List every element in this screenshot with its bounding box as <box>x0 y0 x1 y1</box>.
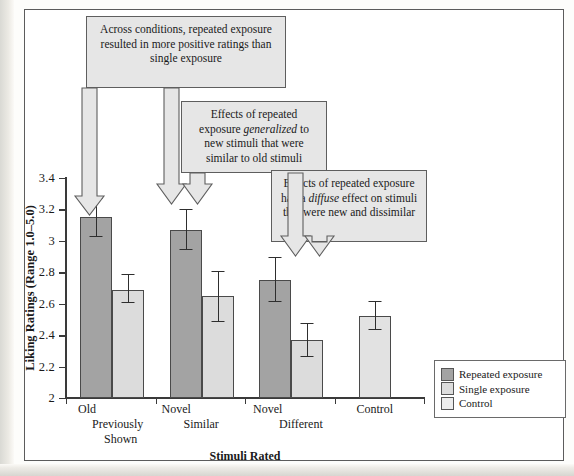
y-axis-tick-label: 2.4 <box>39 328 55 343</box>
error-bar <box>275 257 276 301</box>
legend-item: Control <box>441 397 559 410</box>
x-axis-category-line: Novel <box>253 402 282 417</box>
error-bar-cap <box>368 301 381 302</box>
scan-edge-left <box>0 0 14 476</box>
annotation-text: Across conditions, repeated exposure res… <box>100 23 272 64</box>
x-axis-tick <box>424 398 425 404</box>
control-swatch <box>441 397 454 410</box>
legend-item: Single exposure <box>441 382 559 395</box>
error-bar-cap <box>211 321 224 322</box>
y-axis-title: Liking Ratings (Range 1.0–5.0) <box>23 178 39 398</box>
y-axis-tick-label: 3.4 <box>39 171 55 186</box>
y-axis-tick-label: 2.6 <box>39 296 55 311</box>
x-axis-category-label: Control <box>335 402 425 448</box>
bar <box>170 230 202 398</box>
legend-item: Repeated exposure <box>441 368 559 381</box>
y-axis-tick-label: 2.2 <box>39 359 55 374</box>
y-axis-tick <box>59 241 66 242</box>
x-axis-category-line: Previously <box>92 417 143 432</box>
y-axis-tick <box>59 178 66 179</box>
legend-label: Repeated exposure <box>459 368 542 380</box>
annotation-across-conditions: Across conditions, repeated exposure res… <box>86 16 286 88</box>
x-axis-category-label: NovelDifferent <box>245 402 335 448</box>
y-axis-tick-label: 3.2 <box>39 202 55 217</box>
legend-label: Control <box>459 397 493 409</box>
y-axis-tick <box>59 304 66 305</box>
error-bar <box>307 323 308 356</box>
error-bar <box>375 301 376 329</box>
error-bar <box>96 198 97 236</box>
y-axis-tick-label: 2 <box>49 391 55 406</box>
x-axis-category-line: Different <box>279 417 323 432</box>
error-bar <box>128 274 129 302</box>
error-bar <box>218 271 219 321</box>
error-bar-cap <box>122 274 135 275</box>
figure-container: 22.22.42.62.833.23.4 Liking Ratings (Ran… <box>0 0 574 476</box>
error-bar <box>186 209 187 248</box>
annotation-emphasis: diffuse <box>308 192 339 204</box>
x-axis-title: Stimuli Rated <box>66 449 424 464</box>
repeated-exposure-swatch <box>441 368 454 381</box>
error-bar-cap <box>301 356 314 357</box>
x-axis-category-label: OldPreviouslyShown <box>66 402 156 448</box>
y-axis-tick-label: 3 <box>49 233 55 248</box>
x-axis-category-line: Similar <box>184 417 219 432</box>
annotation-generalized: Effects of repeated exposure generalized… <box>181 101 327 173</box>
annotation-emphasis: generalized <box>243 123 297 135</box>
scan-edge-bottom <box>0 464 574 476</box>
x-axis-category-line: Control <box>357 402 394 417</box>
x-axis-category-label: NovelSimilar <box>156 402 246 448</box>
error-bar-cap <box>301 323 314 324</box>
error-bar-cap <box>269 257 282 258</box>
error-bar-cap <box>179 249 192 250</box>
error-bar-cap <box>368 329 381 330</box>
x-axis-category-line: Shown <box>104 432 137 447</box>
y-axis-tick <box>59 209 66 210</box>
y-axis-tick <box>59 272 66 273</box>
legend: Repeated exposureSingle exposureControl <box>434 360 566 418</box>
x-axis-category-line: Old <box>78 402 96 417</box>
x-axis-category-line: Novel <box>162 402 191 417</box>
error-bar-cap <box>211 271 224 272</box>
error-bar-cap <box>90 198 103 199</box>
error-bar-cap <box>269 301 282 302</box>
error-bar-cap <box>179 209 192 210</box>
bar <box>112 290 144 398</box>
y-axis-tick <box>59 367 66 368</box>
single-exposure-swatch <box>441 382 454 395</box>
error-bar-cap <box>90 236 103 237</box>
y-axis-tick <box>59 398 66 399</box>
y-axis-tick-label: 2.8 <box>39 265 55 280</box>
legend-label: Single exposure <box>459 383 530 395</box>
bar <box>80 217 112 398</box>
annotation-diffuse: Effects of repeated exposure had a diffu… <box>271 170 427 242</box>
y-axis-tick <box>59 335 66 336</box>
error-bar-cap <box>122 302 135 303</box>
